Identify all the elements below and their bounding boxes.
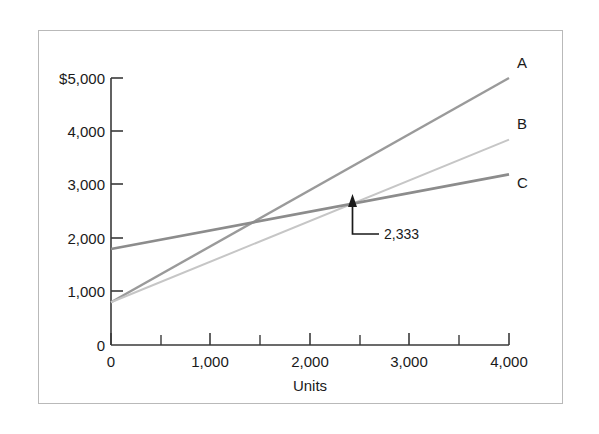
- y-tick-marks: [111, 78, 123, 291]
- annotation-arrow-head: [348, 194, 357, 207]
- x-axis-title: Units: [293, 377, 327, 394]
- y-tick-labels: $5,000 4,000 3,000 2,000 1,000 0: [59, 70, 105, 354]
- x-tick-label-2000: 2,000: [291, 353, 329, 370]
- series-lines: [111, 78, 509, 302]
- annotation-leader-line: [353, 206, 380, 234]
- y-tick-label-1000: 1,000: [67, 283, 105, 300]
- y-tick-label-3000: 3,000: [67, 176, 105, 193]
- x-tick-label-4000: 4,000: [490, 353, 528, 370]
- annotation-label: 2,333: [384, 226, 419, 242]
- series-line-A: [111, 78, 509, 302]
- figure-frame: $5,000 4,000 3,000 2,000 1,000 0 0 1,000…: [38, 30, 563, 404]
- series-line-C: [111, 174, 509, 249]
- series-labels: A B C: [517, 54, 528, 191]
- y-tick-label-0: 0: [97, 337, 105, 354]
- y-tick-label-4000: 4,000: [67, 123, 105, 140]
- series-label-C: C: [517, 174, 528, 191]
- y-tick-label-5000: $5,000: [59, 70, 105, 87]
- x-tick-label-0: 0: [107, 353, 115, 370]
- series-line-B: [111, 140, 509, 303]
- series-label-B: B: [517, 115, 527, 132]
- x-tick-label-1000: 1,000: [191, 353, 229, 370]
- x-tick-labels: 0 1,000 2,000 3,000 4,000: [107, 353, 528, 370]
- x-tick-marks: [111, 333, 509, 345]
- series-label-A: A: [517, 54, 527, 71]
- line-chart: $5,000 4,000 3,000 2,000 1,000 0 0 1,000…: [39, 31, 564, 405]
- y-tick-label-2000: 2,000: [67, 230, 105, 247]
- x-tick-label-3000: 3,000: [390, 353, 428, 370]
